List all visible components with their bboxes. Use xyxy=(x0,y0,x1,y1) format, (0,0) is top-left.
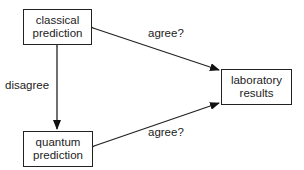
edge-label-agree-top: agree? xyxy=(148,27,184,40)
node-quantum-line2: prediction xyxy=(33,149,83,162)
node-laboratory-line2: results xyxy=(240,87,274,100)
node-quantum-prediction: quantum prediction xyxy=(23,131,93,167)
node-classical-line1: classical xyxy=(36,14,79,27)
node-classical-prediction: classical prediction xyxy=(23,9,92,45)
edge-quantum-lab xyxy=(94,103,219,146)
node-laboratory-line1: laboratory xyxy=(231,74,282,87)
edge-label-disagree: disagree xyxy=(5,79,49,92)
edge-label-agree-bottom: agree? xyxy=(148,126,184,139)
node-laboratory-results: laboratory results xyxy=(221,69,292,105)
node-quantum-line1: quantum xyxy=(36,136,81,149)
node-classical-line2: prediction xyxy=(33,27,83,40)
